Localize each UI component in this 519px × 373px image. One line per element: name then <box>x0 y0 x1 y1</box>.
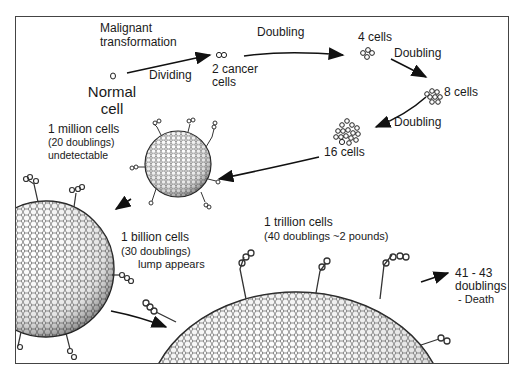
label-doubling-1: Doubling <box>257 26 304 39</box>
label-lump-appears: lump appears <box>121 258 205 270</box>
label-death-text: - Death <box>455 293 506 305</box>
diagram-artwork <box>16 17 509 364</box>
label-million: 1 million cells (20 doublings) undetecta… <box>48 123 119 161</box>
label-undetectable: undetectable <box>48 150 119 162</box>
label-cell: cell <box>82 101 142 118</box>
label-trillion: 1 trillion cells (40 doublings ~2 pounds… <box>264 216 388 242</box>
billion-cell-tumor <box>16 175 134 360</box>
label-billion: 1 billion cells (30 doublings) lump appe… <box>121 231 205 270</box>
label-trillion-cells: 1 trillion cells <box>264 216 388 229</box>
label-dividing: Dividing <box>149 69 192 82</box>
label-doubling-2: Doubling <box>394 47 441 60</box>
label-normal: Normal <box>82 84 142 101</box>
label-eight-cells: 8 cells <box>444 86 478 99</box>
label-cells: cells <box>212 76 258 89</box>
label-40-doublings: (40 doublings ~2 pounds) <box>264 230 388 242</box>
label-doublings: doublings <box>455 280 506 293</box>
label-death: 41 - 43 doublings - Death <box>455 267 506 305</box>
label-20-doublings: (20 doublings) <box>48 137 119 149</box>
label-doubling-3: Doubling <box>394 116 441 129</box>
label-transformation: transformation <box>100 36 177 49</box>
label-30-doublings: (30 doublings) <box>121 245 205 257</box>
label-billion-cells: 1 billion cells <box>121 231 205 244</box>
diagram-frame: Malignant transformation Dividing Normal… <box>15 16 509 364</box>
label-two-cancer-cells: 2 cancer cells <box>212 63 258 89</box>
label-four-cells: 4 cells <box>358 31 392 44</box>
label-million-cells: 1 million cells <box>48 123 119 136</box>
million-cell-tumor <box>130 118 220 209</box>
label-malignant: Malignant <box>100 22 152 35</box>
label-sixteen-cells: 16 cells <box>324 146 365 159</box>
label-normal-cell: Normal cell <box>82 84 142 117</box>
